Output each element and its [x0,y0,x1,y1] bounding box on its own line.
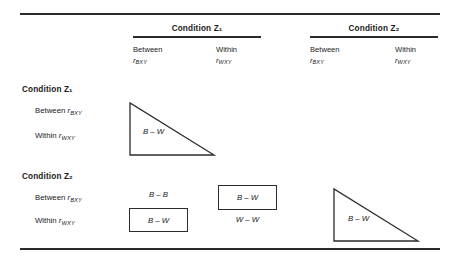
cell-b-minus-w-boxed-left: B – W [129,208,188,232]
row-group-header-z2: Condition Z₂ [22,172,73,181]
r-subscript: BXY [136,59,148,65]
table-top-rule [20,13,440,15]
row-header-text: Within [35,216,59,225]
table-bottom-rule [20,248,440,250]
triangle-z2-block [333,188,419,242]
column-header-z1-within: Within rWXY [216,45,237,68]
spanner-rule-z2 [310,36,438,38]
row-header-text: Within [35,131,59,140]
cell-w-minus-w: W – W [218,215,277,224]
triangle-z1-label: B – W [143,127,164,136]
column-header-line1: Between [133,45,163,54]
column-header-z2-between: Between rBXY [310,45,340,68]
column-header-line2: rBXY [133,56,163,68]
cell-label: B – W [237,193,258,202]
column-group-header-z1: Condition Z₁ [133,24,261,33]
column-header-line2: rBXY [310,56,340,68]
triangle-z1-block [129,102,215,156]
column-header-line1: Within [395,45,416,54]
column-header-z2-within: Within rWXY [395,45,416,68]
r-subscript: BXY [70,110,82,116]
table-figure: Condition Z₁ Condition Z₂ Between rBXY W… [0,0,459,264]
r-subscript: BXY [70,197,82,203]
row-header-z2-within: Within rWXY [35,216,75,226]
cell-b-minus-b: B – B [129,190,188,199]
r-subscript: BXY [313,59,325,65]
column-header-line1: Between [310,45,340,54]
column-header-line1: Within [216,45,237,54]
column-header-z1-between: Between rBXY [133,45,163,68]
row-header-text: Between [35,106,68,115]
cell-label: B – W [148,216,169,225]
column-group-header-z2: Condition Z₂ [310,24,438,33]
column-header-line2: rWXY [216,56,237,68]
triangle-z2-label: B – W [348,214,369,223]
spanner-rule-z1 [133,36,261,38]
r-subscript: WXY [219,59,232,65]
r-subscript: WXY [61,220,74,226]
row-header-text: Between [35,193,68,202]
row-header-z2-between: Between rBXY [35,193,82,203]
row-header-z1-between: Between rBXY [35,106,82,116]
row-header-z1-within: Within rWXY [35,131,75,141]
r-subscript: WXY [61,135,74,141]
r-subscript: WXY [398,59,411,65]
cell-b-minus-w-boxed-right: B – W [218,185,277,210]
column-header-line2: rWXY [395,56,416,68]
row-group-header-z1: Condition Z₁ [22,85,73,94]
